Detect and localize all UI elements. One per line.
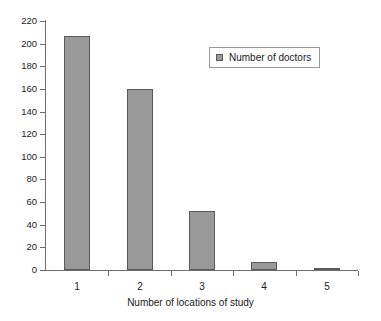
y-axis-tick-label: 120 bbox=[0, 129, 37, 139]
x-axis-tick-label: 3 bbox=[182, 281, 222, 292]
y-axis-tick-label-wrap: 180 bbox=[0, 61, 37, 71]
y-axis-tick bbox=[40, 112, 45, 113]
x-axis-tick-label: 5 bbox=[307, 281, 347, 292]
y-axis-tick-label-wrap: 160 bbox=[0, 84, 37, 94]
bar bbox=[314, 268, 340, 270]
y-axis-tick-label-wrap: 0 bbox=[0, 265, 37, 275]
x-axis-tick bbox=[358, 271, 359, 276]
x-axis-tick-label: 4 bbox=[244, 281, 284, 292]
y-axis-tick-label: 60 bbox=[0, 197, 37, 207]
y-axis-tick-label: 220 bbox=[0, 16, 37, 26]
y-axis-tick-label: 140 bbox=[0, 107, 37, 117]
y-axis-tick-label: 180 bbox=[0, 61, 37, 71]
y-axis-tick bbox=[40, 247, 45, 248]
y-axis-tick bbox=[40, 179, 45, 180]
legend-item-label: Number of doctors bbox=[229, 52, 311, 63]
y-axis-tick bbox=[40, 66, 45, 67]
y-axis-tick-label-wrap: 60 bbox=[0, 197, 37, 207]
y-axis-tick-label: 20 bbox=[0, 242, 37, 252]
bar bbox=[251, 262, 277, 270]
bar bbox=[64, 36, 90, 270]
y-axis-tick bbox=[40, 157, 45, 158]
y-axis-tick bbox=[40, 270, 45, 271]
bar-chart-figure: 020406080100120140160180200220 12345 Num… bbox=[0, 0, 381, 321]
y-axis-tick-label-wrap: 140 bbox=[0, 107, 37, 117]
y-axis-tick-label-wrap: 220 bbox=[0, 16, 37, 26]
x-axis-title: Number of locations of study bbox=[0, 297, 381, 309]
y-axis-tick bbox=[40, 44, 45, 45]
x-axis-tick bbox=[171, 271, 172, 276]
y-axis-tick-label-wrap: 40 bbox=[0, 220, 37, 230]
y-axis-tick-label: 160 bbox=[0, 84, 37, 94]
x-axis-tick bbox=[296, 271, 297, 276]
y-axis-tick-label-wrap: 100 bbox=[0, 152, 37, 162]
y-axis-tick bbox=[40, 21, 45, 22]
x-axis-tick-label: 1 bbox=[57, 281, 97, 292]
y-axis-tick-label: 40 bbox=[0, 220, 37, 230]
y-axis-tick-label-wrap: 120 bbox=[0, 129, 37, 139]
x-axis-line bbox=[45, 270, 358, 271]
y-axis-tick bbox=[40, 225, 45, 226]
bar bbox=[127, 89, 153, 270]
y-axis-tick-label-wrap: 80 bbox=[0, 174, 37, 184]
x-axis-tick bbox=[108, 271, 109, 276]
legend-swatch-icon bbox=[216, 54, 223, 61]
x-axis-tick bbox=[233, 271, 234, 276]
y-axis-tick-label: 100 bbox=[0, 152, 37, 162]
y-axis-tick bbox=[40, 202, 45, 203]
bar bbox=[189, 211, 215, 270]
chart-legend: Number of doctors bbox=[209, 47, 320, 68]
y-axis-tick-label-wrap: 20 bbox=[0, 242, 37, 252]
y-axis-tick bbox=[40, 134, 45, 135]
y-axis-tick-label-wrap: 200 bbox=[0, 39, 37, 49]
y-axis-tick-label: 200 bbox=[0, 39, 37, 49]
y-axis-tick bbox=[40, 89, 45, 90]
y-axis-tick-label: 0 bbox=[0, 265, 37, 275]
x-axis-tick-label: 2 bbox=[120, 281, 160, 292]
y-axis-tick-label: 80 bbox=[0, 174, 37, 184]
